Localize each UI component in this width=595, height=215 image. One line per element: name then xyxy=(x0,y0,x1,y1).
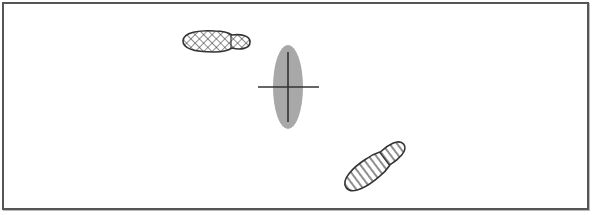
center-marker-icon xyxy=(258,45,319,129)
diagram-canvas xyxy=(0,0,595,215)
footprint-striped-icon xyxy=(339,135,410,196)
footprint-crosshatch-icon xyxy=(183,31,250,52)
